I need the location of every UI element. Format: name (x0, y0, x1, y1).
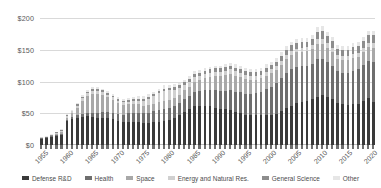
legend-swatch-icon (85, 176, 92, 180)
bar-column[interactable] (122, 18, 125, 145)
bar-column[interactable] (336, 18, 339, 145)
bar-segment (275, 83, 278, 113)
bar-segment (352, 104, 355, 145)
bar-segment (295, 103, 298, 145)
legend-item[interactable]: Defense R&D (22, 175, 72, 182)
bar-column[interactable] (265, 18, 268, 145)
bar-column[interactable] (367, 18, 370, 145)
bar-column[interactable] (60, 18, 63, 145)
bar-segment (214, 76, 217, 90)
bar-column[interactable] (306, 18, 309, 145)
bar-column[interactable] (152, 18, 155, 145)
bar-column[interactable] (96, 18, 99, 145)
bar-column[interactable] (357, 18, 360, 145)
bar-column[interactable] (117, 18, 120, 145)
bar-column[interactable] (352, 18, 355, 145)
x-axis-labels: 1955196019651970197519801985199019952000… (40, 149, 375, 171)
bar-column[interactable] (311, 18, 314, 145)
bar-column[interactable] (71, 18, 74, 145)
bar-segment (132, 113, 135, 123)
bar-column[interactable] (285, 18, 288, 145)
bar-segment (178, 103, 181, 115)
bar-column[interactable] (249, 18, 252, 145)
bar-column[interactable] (239, 18, 242, 145)
bar-column[interactable] (280, 18, 283, 145)
bar-column[interactable] (112, 18, 115, 145)
bar-column[interactable] (219, 18, 222, 145)
bar-column[interactable] (290, 18, 293, 145)
bar-column[interactable] (331, 18, 334, 145)
y-tick-label: $150 (18, 45, 34, 54)
bar-segment (244, 79, 247, 94)
bar-column[interactable] (132, 18, 135, 145)
bar-column[interactable] (173, 18, 176, 145)
bar-column[interactable] (372, 18, 375, 145)
bar-column[interactable] (45, 18, 48, 145)
bar-column[interactable] (188, 18, 191, 145)
bar-column[interactable] (81, 18, 84, 145)
bar-column[interactable] (137, 18, 140, 145)
bar-column[interactable] (321, 18, 324, 145)
bar-column[interactable] (127, 18, 130, 145)
bar-column[interactable] (178, 18, 181, 145)
bar-column[interactable] (91, 18, 94, 145)
bar-column[interactable] (214, 18, 217, 145)
bar-segment (117, 103, 120, 114)
bar-segment (137, 104, 140, 112)
bar-segment (204, 106, 207, 145)
bar-column[interactable] (347, 18, 350, 145)
legend-item[interactable]: Health (85, 175, 114, 182)
bar-column[interactable] (40, 18, 43, 145)
bar-column[interactable] (50, 18, 53, 145)
bar-segment (71, 119, 74, 145)
bar-column[interactable] (101, 18, 104, 145)
bar-segment (234, 112, 237, 145)
bar-column[interactable] (244, 18, 247, 145)
bar-segment (306, 51, 309, 66)
bar-segment (224, 109, 227, 145)
bar-segment (163, 101, 166, 109)
bar-column[interactable] (209, 18, 212, 145)
bar-column[interactable] (362, 18, 365, 145)
bar-column[interactable] (106, 18, 109, 145)
legend-item[interactable]: Space (126, 175, 154, 182)
bar-column[interactable] (158, 18, 161, 145)
bar-segment (285, 108, 288, 145)
bar-column[interactable] (204, 18, 207, 145)
bar-column[interactable] (260, 18, 263, 145)
bar-column[interactable] (193, 18, 196, 145)
bar-column[interactable] (275, 18, 278, 145)
bar-segment (152, 96, 155, 104)
bar-segment (142, 106, 145, 114)
bar-column[interactable] (76, 18, 79, 145)
bar-column[interactable] (316, 18, 319, 145)
bar-column[interactable] (295, 18, 298, 145)
bar-column[interactable] (224, 18, 227, 145)
bar-column[interactable] (198, 18, 201, 145)
bar-column[interactable] (229, 18, 232, 145)
bar-column[interactable] (301, 18, 304, 145)
bar-column[interactable] (168, 18, 171, 145)
bar-column[interactable] (66, 18, 69, 145)
bar-segment (290, 55, 293, 70)
bar-column[interactable] (183, 18, 186, 145)
bar-column[interactable] (326, 18, 329, 145)
bar-column[interactable] (86, 18, 89, 145)
bar-column[interactable] (55, 18, 58, 145)
bar-column[interactable] (255, 18, 258, 145)
bar-column[interactable] (341, 18, 344, 145)
legend-item[interactable]: General Science (262, 175, 320, 182)
bar-column[interactable] (270, 18, 273, 145)
bar-segment (147, 123, 150, 145)
bar-segment (372, 102, 375, 145)
bar-segment (357, 69, 360, 103)
bar-column[interactable] (147, 18, 150, 145)
bar-segment (158, 122, 161, 145)
bar-column[interactable] (163, 18, 166, 145)
bar-segment (357, 104, 360, 145)
legend-item[interactable]: Energy and Natural Res. (168, 175, 249, 182)
legend-item[interactable]: Other (333, 175, 359, 182)
bar-column[interactable] (142, 18, 145, 145)
bar-column[interactable] (234, 18, 237, 145)
x-tick-label: 2010 (312, 149, 328, 165)
